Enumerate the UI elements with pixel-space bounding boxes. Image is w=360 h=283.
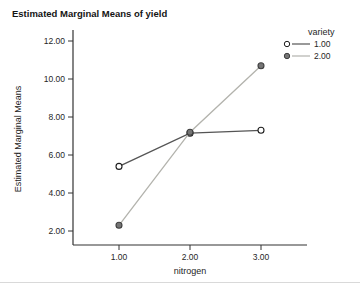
series-line-variety-2.00 [119, 66, 261, 226]
legend-item-variety-1.00: 1.00 [283, 38, 335, 50]
legend: variety 1.002.00 [283, 27, 335, 62]
emmeans-profile-plot: Estimated Marginal Means of yield 2.004.… [0, 0, 360, 283]
legend-item-label: 1.00 [314, 39, 331, 49]
legend-item-variety-2.00: 2.00 [283, 50, 335, 62]
x-axis-tick-label: 2.00 [182, 252, 199, 262]
open-circle-legend-marker [283, 39, 312, 49]
data-point-marker-variety-2.00 [116, 222, 122, 228]
legend-title: variety [308, 27, 335, 37]
y-axis-tick-label: 10.00 [44, 74, 66, 84]
legend-rows: 1.002.00 [283, 38, 335, 62]
y-axis-label: Estimated Marginal Means [13, 86, 23, 193]
data-point-marker-variety-1.00 [116, 163, 122, 169]
y-axis-tick-label: 6.00 [48, 150, 65, 160]
x-axis-tick-label: 3.00 [253, 252, 270, 262]
x-axis-tick-label: 1.00 [111, 252, 128, 262]
y-axis-tick-label: 8.00 [48, 112, 65, 122]
data-point-marker-variety-2.00 [258, 63, 264, 69]
x-axis-label: nitrogen [174, 266, 207, 276]
data-point-marker-variety-1.00 [258, 127, 264, 133]
y-axis-tick-label: 4.00 [48, 188, 65, 198]
legend-item-label: 2.00 [314, 51, 331, 61]
data-point-marker-variety-2.00 [187, 129, 193, 135]
filled-circle-legend-marker [283, 51, 312, 61]
y-axis-tick-label: 2.00 [48, 226, 65, 236]
y-axis-tick-label: 12.00 [44, 36, 66, 46]
